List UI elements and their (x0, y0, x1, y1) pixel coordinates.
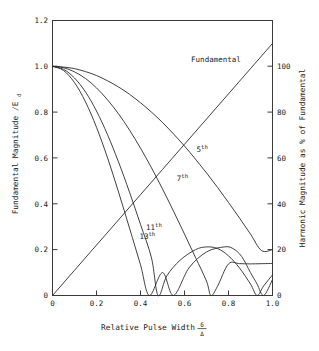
y-right-tick-marks (268, 66, 273, 295)
series-label-13th: 13th (139, 231, 155, 241)
x-axis-title-numerator: δ (200, 321, 204, 328)
y-left-axis-title-subscript: d (16, 94, 22, 97)
x-tick-label: 0.6 (178, 299, 192, 308)
series-line-11th (53, 66, 273, 296)
y-right-tick-label: 40 (277, 200, 287, 209)
x-axis-title: Relative Pulse Width δ Δ (101, 321, 206, 338)
y-right-tick-label: 20 (277, 245, 287, 254)
series-label-5th: 5th (197, 144, 208, 154)
y-left-tick-labels: 0 0.2 0.4 0.6 0.8 1.0 1.2 (34, 16, 48, 300)
y-right-axis-title-text: Harmonic Magnitude as % of Fundamental (298, 69, 307, 247)
chart-svg: 0 0.2 0.4 0.6 0.8 1.0 0 0.2 0.4 0.6 0.8 … (0, 0, 319, 351)
y-right-tick-label: 60 (277, 154, 287, 163)
series-label-7th: 7th (177, 173, 188, 183)
series-line-13th (53, 66, 273, 295)
y-left-tick-label: 0.4 (34, 200, 48, 209)
y-left-tick-label: 0 (43, 291, 48, 300)
x-tick-label: 0.8 (222, 299, 236, 308)
y-right-tick-label: 80 (277, 108, 287, 117)
series-line-7th (53, 66, 273, 295)
x-tick-label: 0 (50, 299, 55, 308)
x-tick-labels: 0 0.2 0.4 0.6 0.8 1.0 (50, 299, 280, 308)
series-line-5th (53, 66, 273, 251)
y-left-tick-marks (53, 21, 58, 296)
y-left-tick-label: 1.2 (34, 16, 48, 25)
x-axis-title-text: Relative Pulse Width (101, 323, 195, 332)
data-curves (53, 43, 273, 295)
y-right-tick-labels: 0 20 40 60 80 100 (277, 62, 291, 300)
series-line-fundamental (53, 43, 273, 295)
y-left-tick-label: 1.0 (34, 62, 48, 71)
y-right-tick-label: 100 (277, 62, 291, 71)
y-right-tick-label: 0 (277, 291, 282, 300)
y-left-tick-label: 0.6 (34, 154, 48, 163)
y-left-axis-title: Fundamental Magnitude /E d (11, 94, 22, 215)
x-tick-label: 1.0 (266, 299, 280, 308)
y-left-axis-title-text: Fundamental Magnitude /E (11, 101, 20, 214)
x-axis-title-denominator: Δ (200, 330, 204, 337)
curve-annotations: Fundamental5th7th11th13th (139, 55, 240, 242)
x-tick-label: 0.2 (90, 299, 104, 308)
x-tick-marks (53, 291, 273, 296)
x-tick-label: 0.4 (134, 299, 148, 308)
y-right-axis-title: Harmonic Magnitude as % of Fundamental (298, 69, 307, 247)
y-left-tick-label: 0.8 (34, 108, 48, 117)
series-label-fundamental: Fundamental (191, 55, 241, 64)
chart-figure: 0 0.2 0.4 0.6 0.8 1.0 0 0.2 0.4 0.6 0.8 … (0, 0, 319, 351)
y-left-tick-label: 0.2 (34, 245, 48, 254)
